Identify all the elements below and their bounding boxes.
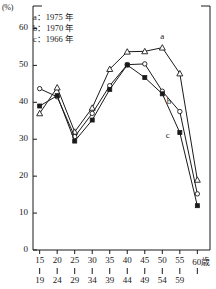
- data-point-marker: [143, 76, 147, 80]
- data-point-marker: [195, 192, 199, 196]
- y-axis-tick-label: 10: [8, 207, 28, 217]
- series-a: [37, 45, 201, 183]
- series-line-b: [40, 64, 198, 194]
- data-point-marker: [178, 131, 182, 135]
- series-annotation-b: b: [167, 96, 172, 106]
- series-annotation-c: c: [166, 130, 170, 140]
- data-point-marker: [55, 94, 59, 98]
- x-axis-tick-label-upper: 60歳: [186, 255, 216, 268]
- data-point-marker: [90, 118, 94, 122]
- data-point-marker: [37, 110, 43, 115]
- series-annotation-a: a: [160, 31, 164, 41]
- series-b: [37, 62, 199, 196]
- y-axis-tick-label: 40: [8, 96, 28, 106]
- data-point-marker: [90, 111, 94, 115]
- x-axis-tick-label-lower: 59: [169, 275, 191, 285]
- data-point-marker: [125, 63, 129, 67]
- data-point-marker: [73, 139, 77, 143]
- chart-axes: [33, 6, 210, 274]
- data-point-marker: [178, 109, 182, 113]
- data-point-marker: [37, 86, 41, 90]
- y-axis-tick-label: 20: [8, 170, 28, 180]
- data-point-marker: [195, 204, 199, 208]
- data-point-marker: [194, 177, 200, 182]
- data-point-marker: [177, 71, 183, 76]
- data-point-marker: [160, 92, 164, 96]
- data-point-marker: [54, 85, 60, 90]
- y-axis-tick-label: 50: [8, 59, 28, 69]
- data-point-marker: [38, 104, 42, 108]
- y-axis-tick-label: 30: [8, 133, 28, 143]
- series-line-a: [40, 48, 198, 180]
- chart-series: [37, 45, 201, 208]
- series-line-c: [40, 65, 198, 206]
- chart-canvas: [0, 0, 216, 289]
- data-point-marker: [108, 87, 112, 91]
- line-chart: (%) a：1975 年 b：1970 年 c：1966 年 010203040…: [0, 0, 216, 289]
- y-axis-tick-label: 0: [8, 244, 28, 254]
- y-axis-tick-label: 60: [8, 22, 28, 32]
- data-point-marker: [159, 45, 165, 50]
- data-point-marker: [143, 62, 147, 66]
- series-c: [38, 63, 200, 208]
